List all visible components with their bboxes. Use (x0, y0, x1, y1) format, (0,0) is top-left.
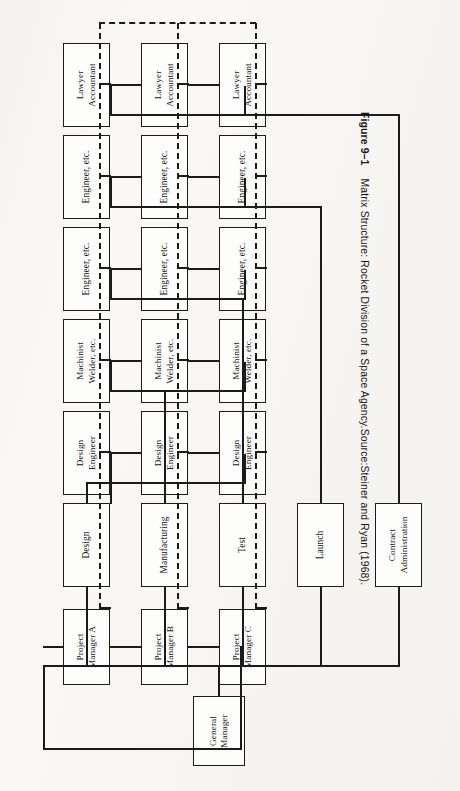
dashed-return-right (99, 22, 256, 24)
node-label: Engineer, etc. (237, 150, 248, 203)
figure-caption-text: Matrix Structure: Rocket Division of a S… (360, 178, 371, 585)
connector-trunk-to-launch (320, 586, 322, 667)
figure-caption: Figure 9–1 Matrix Structure: Rocket Divi… (337, 0, 393, 791)
node-function-design[interactable]: Design (63, 503, 110, 587)
connector-contract-staff-b-drop (188, 83, 219, 85)
node-label: MachinistWelder, etc. (153, 338, 175, 383)
figure-page: GeneralManager Design Manufacturing Test… (0, 0, 460, 791)
figure-number: Figure 9–1 (360, 112, 371, 165)
dashed-stub-mfg-b (177, 359, 189, 361)
node-label: Engineer, etc. (81, 150, 92, 203)
dashed-stub-contract-c (255, 83, 267, 85)
node-label: Engineer, etc. (159, 150, 170, 203)
dashed-stub-mfg-c (255, 359, 267, 361)
dashed-stub-mfg-a (99, 359, 111, 361)
connector-test-to-staff-c (244, 270, 246, 300)
connector-test-staff-b-drop (188, 267, 219, 269)
node-label: Launch (315, 530, 326, 559)
node-label: LawyerAccountant (75, 63, 97, 106)
connector-manufacturing-staff-b-drop (188, 359, 219, 361)
dashed-bus-project-a (99, 23, 101, 609)
connector-pm-bus-left-drop (43, 747, 241, 749)
connector-trunk-to-manufacturing (164, 586, 166, 667)
connector-contract-staff-a-drop (110, 83, 141, 85)
node-function-test[interactable]: Test (219, 503, 266, 587)
dashed-bus-project-b (177, 23, 179, 609)
node-label: GeneralManager (208, 714, 230, 747)
connector-launch-to-staff-c (244, 178, 246, 208)
dashed-stub-contract-a (99, 83, 111, 85)
dashed-stub-test-b (177, 267, 189, 269)
connector-gm-stub (218, 666, 220, 696)
dashed-stub-pm-a (99, 607, 111, 609)
dashed-stub-launch-b (177, 175, 189, 177)
connector-design-to-staff-c (244, 454, 246, 484)
dashed-stub-pm-c (255, 607, 267, 609)
node-label: Engineer, etc. (237, 242, 248, 295)
connector-trunk-to-design (86, 586, 88, 667)
node-label: DesignEngineer (75, 436, 97, 470)
dashed-stub-launch-c (255, 175, 267, 177)
dashed-stub-design-b (177, 451, 189, 453)
connector-pm-c-stub (188, 645, 219, 647)
node-label: Engineer, etc. (159, 242, 170, 295)
connector-pm-b-stub (110, 645, 141, 647)
connector-design-stub (86, 482, 88, 504)
node-function-manufacturing[interactable]: Manufacturing (141, 503, 188, 587)
node-label: MachinistWelder, etc. (75, 338, 97, 383)
connector-launch-staff-a-drop (110, 175, 141, 177)
connector-test-top-bus (110, 270, 112, 300)
connector-manufacturing-to-staff-c (244, 362, 246, 392)
node-label: Design (81, 531, 92, 558)
connector-pm-bus-bottom (240, 646, 242, 750)
connector-trunk-to-pm-bus-vertical (43, 664, 88, 666)
connector-contract-top-bus (110, 86, 112, 116)
connector-manufacturing-top-bus (110, 362, 112, 392)
node-label: LawyerAccountant (231, 63, 253, 106)
connector-manufacturing-staff-a-drop (110, 359, 141, 361)
connector-test-stub (242, 300, 244, 504)
connector-trunk-to-test (242, 586, 244, 667)
dashed-stub-test-a (99, 267, 111, 269)
connector-design-staff-b-drop (188, 451, 219, 453)
connector-pm-a-stub (43, 645, 63, 647)
node-label: Manufacturing (159, 516, 170, 573)
node-label: Engineer, etc. (81, 242, 92, 295)
node-label: LawyerAccountant (153, 63, 175, 106)
connector-trunk-to-contract (398, 586, 400, 667)
connector-contract-to-staff-c (244, 86, 246, 116)
node-label: Test (237, 537, 248, 553)
connector-launch-staff-b-drop (188, 175, 219, 177)
connector-pm-bus (43, 665, 45, 750)
connector-contract-stub (398, 116, 400, 504)
connector-launch-spine (110, 205, 322, 207)
node-general-manager[interactable]: GeneralManager (193, 696, 245, 766)
dashed-stub-contract-b (177, 83, 189, 85)
dashed-stub-pm-b (177, 607, 189, 609)
dashed-stub-design-a (99, 451, 111, 453)
connector-launch-top-bus (110, 178, 112, 208)
dashed-stub-test-c (255, 267, 267, 269)
dashed-stub-launch-a (99, 175, 111, 177)
connector-manufacturing-stub (164, 392, 166, 504)
dashed-stub-design-c (255, 451, 267, 453)
dashed-bus-project-c (255, 23, 257, 609)
connector-test-staff-a-drop (110, 267, 141, 269)
connector-launch-stub (320, 208, 322, 504)
connector-design-staff-a-drop (110, 451, 141, 453)
connector-design-to-staff-a (110, 452, 112, 504)
